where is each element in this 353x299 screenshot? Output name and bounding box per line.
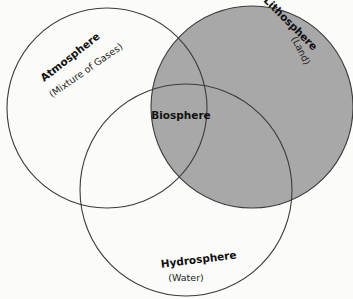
- hydrosphere-label: Hydrosphere: [160, 248, 237, 269]
- biosphere-label: Biosphere: [151, 109, 210, 121]
- earth-spheres-venn-diagram: Atmosphere (Mixture of Gases) Lithospher…: [0, 0, 353, 299]
- hydrosphere-sublabel: (Water): [168, 272, 204, 283]
